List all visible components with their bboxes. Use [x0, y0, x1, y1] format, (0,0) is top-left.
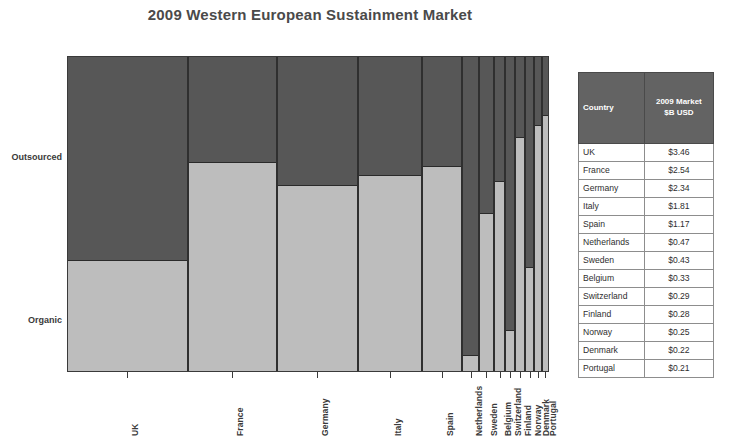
plot-area — [67, 56, 549, 372]
segment-organic — [535, 126, 541, 372]
x-axis-tick — [317, 372, 318, 378]
segment-outsourced — [535, 56, 541, 126]
x-axis-label-sweden: Sweden — [489, 403, 499, 436]
table-row: UK$3.46 — [579, 144, 714, 162]
x-axis-label-spain: Spain — [445, 412, 455, 436]
table-cell-value: $0.21 — [644, 360, 713, 378]
x-axis-label-uk: UK — [130, 424, 140, 436]
table-row: Belgium$0.33 — [579, 270, 714, 288]
table-cell-value: $3.46 — [644, 144, 713, 162]
table-cell-country: Germany — [579, 180, 645, 198]
mekko-column-belgium — [494, 56, 506, 372]
y-axis-label-outsourced: Outsourced — [2, 152, 62, 162]
table-cell-country: Finland — [579, 306, 645, 324]
table-row: Denmark$0.22 — [579, 342, 714, 360]
segment-organic — [495, 182, 505, 372]
segment-outsourced — [516, 56, 524, 138]
x-axis-tick — [510, 372, 511, 378]
x-axis-tick — [520, 372, 521, 378]
table-cell-value: $0.43 — [644, 252, 713, 270]
mekko-column-finland — [515, 56, 525, 372]
mekko-column-italy — [358, 56, 421, 372]
mekko-column-norway — [525, 56, 534, 372]
segment-outsourced — [423, 56, 462, 167]
x-axis-label-switzerland: Switzerland — [513, 388, 523, 436]
x-axis-label-italy: Italy — [393, 418, 403, 436]
market-table: Country 2009 Market $B USD UK$3.46France… — [578, 72, 714, 378]
x-axis-tick — [486, 372, 487, 378]
segment-organic — [543, 116, 548, 372]
x-axis-tick — [127, 372, 128, 378]
table-cell-country: Spain — [579, 216, 645, 234]
table-cell-value: $2.34 — [644, 180, 713, 198]
segment-outsourced — [543, 56, 548, 116]
segment-outsourced — [189, 56, 276, 163]
table-cell-country: Norway — [579, 324, 645, 342]
table-cell-country: Italy — [579, 198, 645, 216]
table-row: Finland$0.28 — [579, 306, 714, 324]
table-header-market-line2: $B USD — [664, 108, 693, 117]
x-axis-label-netherlands: Netherlands — [474, 386, 484, 436]
y-axis-label-organic: Organic — [2, 315, 62, 325]
segment-organic — [463, 356, 477, 372]
table-cell-country: Netherlands — [579, 234, 645, 252]
table-cell-country: France — [579, 162, 645, 180]
table-header-market-line1: 2009 Market — [656, 97, 702, 106]
x-axis-tick — [530, 372, 531, 378]
segment-organic — [359, 176, 420, 372]
segment-outsourced — [68, 56, 187, 261]
segment-outsourced — [495, 56, 505, 182]
segment-organic — [526, 268, 533, 372]
mekko-column-sweden — [479, 56, 494, 372]
segment-outsourced — [463, 56, 477, 356]
table-cell-country: Portugal — [579, 360, 645, 378]
table-row: Norway$0.25 — [579, 324, 714, 342]
segment-organic — [516, 138, 524, 372]
mekko-column-switzerland — [505, 56, 515, 372]
table-header-market: 2009 Market $B USD — [644, 73, 713, 144]
page-title: 2009 Western European Sustainment Market — [0, 6, 620, 23]
table-row: France$2.54 — [579, 162, 714, 180]
table-cell-country: Denmark — [579, 342, 645, 360]
table-row: Portugal$0.21 — [579, 360, 714, 378]
segment-organic — [68, 261, 187, 372]
segment-organic — [189, 163, 276, 372]
mekko-column-netherlands — [462, 56, 478, 372]
table-cell-country: UK — [579, 144, 645, 162]
x-axis — [67, 372, 549, 378]
table-cell-country: Sweden — [579, 252, 645, 270]
table-header-row: Country 2009 Market $B USD — [579, 73, 714, 144]
segment-organic — [480, 214, 493, 372]
x-axis-tick — [442, 372, 443, 378]
x-axis-label-portugal: Portugal — [548, 401, 558, 436]
segment-organic — [506, 331, 514, 372]
mekko-column-portugal — [542, 56, 549, 372]
mekko-column-spain — [422, 56, 463, 372]
x-axis-tick — [500, 372, 501, 378]
segment-organic — [423, 167, 462, 372]
table-cell-value: $0.33 — [644, 270, 713, 288]
table-row: Switzerland$0.29 — [579, 288, 714, 306]
mekko-column-france — [188, 56, 277, 372]
table-row: Italy$1.81 — [579, 198, 714, 216]
table-cell-value: $0.47 — [644, 234, 713, 252]
x-axis-tick — [471, 372, 472, 378]
x-axis-label-belgium: Belgium — [503, 402, 513, 436]
x-axis-tick — [390, 372, 391, 378]
table-cell-value: $0.25 — [644, 324, 713, 342]
marimekko-chart — [67, 56, 549, 372]
table-row: Spain$1.17 — [579, 216, 714, 234]
segment-outsourced — [359, 56, 420, 176]
segment-organic — [278, 186, 358, 372]
table-header-country: Country — [579, 73, 645, 144]
table-cell-value: $1.81 — [644, 198, 713, 216]
x-axis-label-france: France — [235, 408, 245, 436]
mekko-column-denmark — [534, 56, 542, 372]
table-row: Germany$2.34 — [579, 180, 714, 198]
table-cell-value: $2.54 — [644, 162, 713, 180]
segment-outsourced — [526, 56, 533, 268]
table-row: Sweden$0.43 — [579, 252, 714, 270]
table-cell-value: $0.22 — [644, 342, 713, 360]
table-cell-value: $0.28 — [644, 306, 713, 324]
table-cell-value: $0.29 — [644, 288, 713, 306]
